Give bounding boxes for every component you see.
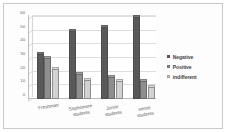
bar-indifferent[interactable]: [84, 80, 91, 99]
bar-top-cap: [101, 25, 108, 27]
bar-face: [148, 87, 155, 99]
bar-top-cap: [148, 85, 155, 87]
y-axis-tick-label: 50: [20, 23, 25, 28]
bar-positive[interactable]: [44, 58, 51, 99]
plot-area: 0102030405060: [28, 15, 156, 103]
bar-face: [108, 77, 115, 99]
bar-face: [37, 54, 44, 99]
bar-face: [44, 58, 51, 99]
bar-positive[interactable]: [108, 77, 115, 99]
y-axis-back-line: [32, 15, 33, 97]
bar-face: [116, 81, 123, 99]
legend-item[interactable]: Positive: [167, 62, 221, 71]
bar-top-cap: [140, 79, 147, 81]
bar-top-cap: [69, 29, 76, 31]
y-axis-tick-label: 60: [20, 10, 25, 15]
bar-top-cap: [133, 15, 140, 17]
y-axis-tick-label: 20: [20, 64, 25, 69]
legend-item[interactable]: Negative: [167, 52, 221, 61]
bar-face: [52, 69, 59, 99]
bar-group: [69, 17, 91, 99]
bar-negative[interactable]: [69, 31, 76, 99]
legend-label: Positive: [173, 64, 192, 70]
bar-negative[interactable]: [133, 17, 140, 99]
bar-top-cap: [37, 52, 44, 54]
legend-item[interactable]: indifferent: [167, 72, 221, 81]
bar-top-cap: [84, 78, 91, 80]
bar-group: [101, 17, 123, 99]
bar-indifferent[interactable]: [52, 69, 59, 99]
bar-top-cap: [52, 67, 59, 69]
bar-group: [37, 17, 59, 99]
legend-label: Negative: [173, 54, 193, 60]
bar-face: [133, 17, 140, 99]
y-axis-line: [28, 15, 29, 99]
chart-figure: 0102030405060 FreshmanSophomorestudentsJ…: [0, 0, 226, 132]
y-axis-tick-label: 40: [20, 37, 25, 42]
bar-top-cap: [116, 79, 123, 81]
legend-swatch-positive: [167, 65, 170, 68]
legend-swatch-indifferent: [167, 75, 170, 78]
bar-face: [69, 31, 76, 99]
bar-negative[interactable]: [101, 27, 108, 99]
bar-indifferent[interactable]: [116, 81, 123, 99]
bar-top-cap: [108, 75, 115, 77]
bar-top-cap: [76, 72, 83, 74]
chart-legend: NegativePositiveindifferent: [167, 52, 221, 82]
y-axis-tick-label: 10: [20, 78, 25, 83]
bar-group: [133, 17, 155, 99]
y-axis-tick-label: 30: [20, 51, 25, 56]
x-axis-category-labels: FreshmanSophomorestudentsJuniorstudentss…: [28, 104, 160, 128]
bar-face: [84, 80, 91, 99]
bar-face: [101, 27, 108, 99]
bar-positive[interactable]: [140, 81, 147, 99]
y-axis-tick-label: 0: [23, 92, 25, 97]
bar-positive[interactable]: [76, 74, 83, 99]
bar-face: [76, 74, 83, 99]
legend-label: indifferent: [173, 74, 197, 80]
bar-indifferent[interactable]: [148, 87, 155, 99]
bar-face: [140, 81, 147, 99]
legend-swatch-negative: [167, 55, 170, 58]
bar-negative[interactable]: [37, 54, 44, 99]
bar-top-cap: [44, 56, 51, 58]
